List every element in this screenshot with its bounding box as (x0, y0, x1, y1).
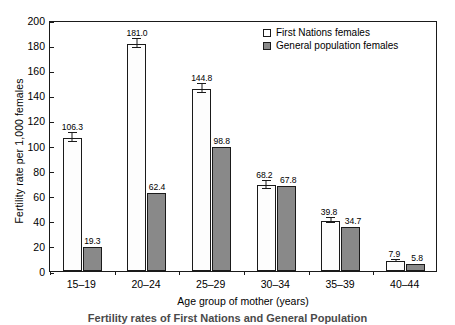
x-axis-category-label: 30–34 (261, 278, 290, 290)
error-bar (266, 180, 267, 189)
y-tick-label: 120 (27, 115, 45, 127)
error-bar-cap (391, 259, 400, 260)
bar: 34.7 (341, 227, 360, 271)
bar-value-label: 67.8 (280, 175, 296, 185)
y-tick-label: 160 (27, 65, 45, 77)
legend-entry-general-population: General population females (263, 40, 398, 51)
x-axis-category-label: 20–24 (131, 278, 160, 290)
y-tick-label: 200 (27, 15, 45, 27)
bar-value-label: 34.7 (345, 216, 361, 226)
bar: 98.8 (212, 147, 231, 271)
bar-group: 106.319.3 (50, 22, 115, 271)
bar-value-label: 7.9 (388, 249, 400, 259)
error-bar-cap (391, 261, 400, 262)
y-tick-label: 80 (33, 166, 45, 178)
y-tick-label: 140 (27, 90, 45, 102)
legend-label: General population females (276, 40, 398, 51)
bar: 67.8 (277, 186, 296, 271)
bar-value-label: 19.3 (84, 236, 100, 246)
error-bar-cap (197, 92, 206, 93)
legend-swatch-icon (263, 29, 271, 37)
bar: 144.8 (192, 89, 211, 271)
error-bar (72, 132, 73, 142)
x-axis-category-label: 25–29 (196, 278, 225, 290)
bar-group: 68.267.8 (244, 22, 309, 271)
error-bar-cap (326, 217, 335, 218)
x-axis-category-label: 15–19 (67, 278, 96, 290)
bar-value-label: 106.3 (62, 122, 83, 132)
bar: 106.3 (63, 138, 82, 271)
bar: 181.0 (127, 44, 146, 271)
error-bar-cap (132, 47, 141, 48)
figure-caption: Fertility rates of First Nations and Gen… (0, 312, 455, 325)
error-bar (136, 38, 137, 49)
bar-value-label: 98.8 (213, 136, 229, 146)
plot-area: 020406080100120140160180200106.319.3181.… (49, 21, 437, 272)
error-bar (395, 259, 396, 262)
bar-value-label: 5.8 (411, 253, 423, 263)
x-axis-tick-mark (244, 271, 245, 275)
x-axis-tick-mark (179, 271, 180, 275)
bar: 7.9 (386, 261, 405, 271)
bar: 19.3 (83, 247, 102, 271)
y-tick-label: 40 (33, 216, 45, 228)
bar-group: 39.834.7 (309, 22, 374, 271)
y-tick-label: 0 (39, 266, 45, 278)
error-bar-cap (132, 38, 141, 39)
x-axis-tick-mark (115, 271, 116, 275)
x-axis-tick-mark (50, 271, 51, 275)
y-tick-label: 60 (33, 191, 45, 203)
y-axis-title: Fertility rate per 1,000 females (13, 36, 25, 266)
x-axis-category-label: 40–44 (390, 278, 419, 290)
error-bar (201, 83, 202, 93)
error-bar (330, 217, 331, 223)
bar: 62.4 (147, 193, 166, 271)
bar-value-label: 68.2 (256, 170, 272, 180)
bar-value-label: 181.0 (126, 28, 147, 38)
y-tick-label: 20 (33, 241, 45, 253)
error-bar-cap (262, 188, 271, 189)
x-axis-tick-mark (309, 271, 310, 275)
fertility-rate-bar-chart: Fertility rate per 1,000 females 0204060… (0, 0, 455, 325)
bar-group: 7.95.8 (373, 22, 438, 271)
legend-entry-first-nations: First Nations females (263, 27, 398, 38)
x-axis-tick-mark (373, 271, 374, 275)
bar-group: 181.062.4 (115, 22, 180, 271)
x-axis-title: Age group of mother (years) (49, 295, 437, 307)
bar: 68.2 (257, 185, 276, 271)
bar: 39.8 (321, 221, 340, 271)
error-bar-cap (262, 180, 271, 181)
error-bar-cap (68, 141, 77, 142)
error-bar-cap (197, 83, 206, 84)
bar-group: 144.898.8 (179, 22, 244, 271)
x-axis-category-label: 35–39 (325, 278, 354, 290)
error-bar-cap (68, 132, 77, 133)
bar: 5.8 (406, 264, 425, 271)
legend-swatch-icon (263, 42, 271, 50)
bar-value-label: 144.8 (191, 73, 212, 83)
y-tick-label: 180 (27, 40, 45, 52)
y-tick-label: 100 (27, 141, 45, 153)
bar-value-label: 39.8 (321, 207, 337, 217)
legend-label: First Nations females (276, 27, 370, 38)
error-bar-cap (326, 222, 335, 223)
bar-value-label: 62.4 (149, 182, 165, 192)
chart-legend: First Nations females General population… (263, 27, 398, 53)
